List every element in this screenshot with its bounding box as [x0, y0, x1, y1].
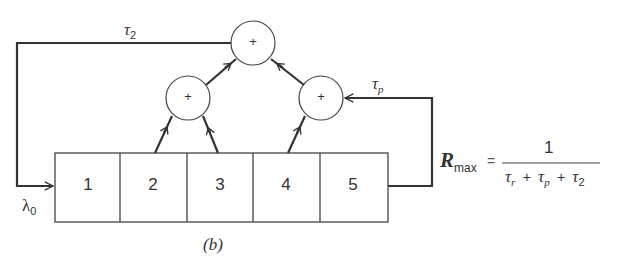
stage-3-label: 3 — [188, 175, 252, 195]
taup-label: τp — [372, 74, 384, 95]
arrow-stage4-to-adder-right — [288, 116, 305, 153]
stage-1-label: 1 — [56, 175, 120, 195]
tau2-sub: 2 — [130, 29, 136, 41]
stage-4-label: 4 — [254, 175, 318, 195]
formula-equals: = — [487, 153, 495, 169]
tau-p-sub: p — [544, 176, 550, 188]
formula-denominator: τr + τp + τ2 — [505, 167, 585, 188]
arrow-stage2-to-adder-left — [155, 116, 172, 153]
arrowhead — [297, 129, 299, 133]
pipeline-diagram — [0, 0, 618, 273]
lambda0-label: λ0 — [22, 196, 36, 217]
formula-lhs: Rmax — [440, 148, 477, 175]
taup-sub: p — [378, 83, 384, 95]
arrowhead — [279, 65, 283, 68]
adder-right-symbol: + — [311, 89, 331, 104]
arrow-adder-right-to-top — [271, 59, 304, 85]
lambda0-sub: 0 — [30, 205, 36, 217]
tau-r-sub: r — [511, 176, 515, 188]
arrow-adder-left-to-top — [206, 59, 236, 85]
adder-top-symbol: + — [243, 34, 263, 49]
plus-op: + — [557, 169, 565, 185]
lambda0-base: λ — [22, 196, 30, 215]
tau-2-sub: 2 — [578, 176, 584, 188]
formula-numerator: 1 — [544, 138, 553, 158]
tau2-label: τ2 — [124, 20, 136, 41]
arrowhead — [209, 130, 210, 133]
formula-lhs-base: R — [440, 148, 454, 172]
adder-left-symbol: + — [178, 89, 198, 104]
plus-op: + — [523, 169, 531, 185]
arrowhead — [164, 129, 166, 133]
stage-2-label: 2 — [121, 175, 185, 195]
stage-5-label: 5 — [321, 175, 385, 195]
arrowhead — [225, 65, 229, 68]
arrow-stage3-to-adder-left — [203, 116, 218, 153]
figure-caption: (b) — [203, 235, 223, 255]
formula-lhs-sub: max — [454, 161, 477, 175]
